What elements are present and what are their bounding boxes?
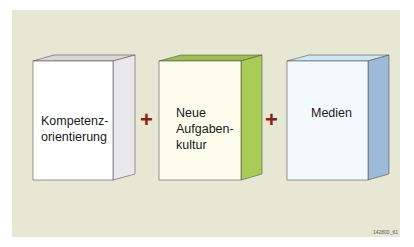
box-label: Medien: [311, 105, 352, 121]
figure-code: 142800_61: [373, 229, 398, 235]
cube-shape: [0, 0, 414, 247]
label-line: Medien: [311, 105, 352, 121]
